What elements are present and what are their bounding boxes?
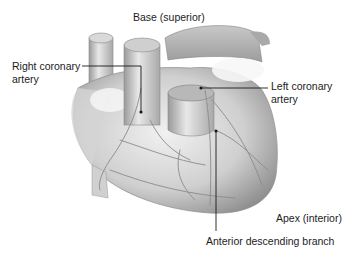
- label-anterior-descending: Anterior descending branch: [206, 235, 334, 247]
- heart-diagram: Base (superior) Right coronary artery Le…: [0, 0, 351, 257]
- pulmonary-trunk: [168, 85, 214, 136]
- aortic-arch: [165, 26, 270, 62]
- pointer-dot-left-coronary: [199, 86, 202, 89]
- pointer-dot-right-coronary: [139, 110, 142, 113]
- label-base: Base (superior): [133, 11, 205, 23]
- label-right-coronary-line1: Right coronary: [12, 60, 80, 72]
- pointer-dot-anterior-descending: [214, 129, 217, 132]
- label-apex: Apex (interior): [276, 212, 342, 224]
- heart-body: [71, 58, 277, 213]
- label-left-coronary-line2: artery: [271, 93, 298, 105]
- label-left-coronary-line1: Left coronary: [271, 80, 332, 92]
- label-right-coronary-line2: artery: [12, 73, 39, 85]
